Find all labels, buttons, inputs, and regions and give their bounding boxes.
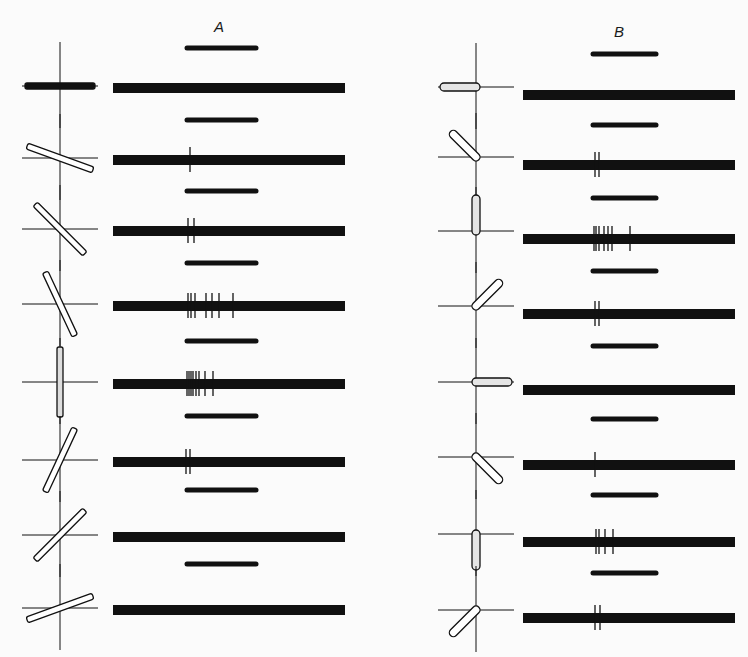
spectrum-band	[113, 226, 345, 236]
spectrum-band	[523, 160, 735, 170]
orientation-icon	[438, 113, 514, 199]
spectrum-band	[523, 385, 735, 395]
spectrum-band	[523, 90, 735, 100]
orientation-icon	[438, 490, 514, 576]
orientation-icon	[22, 260, 98, 346]
orientation-icon	[22, 338, 98, 424]
spectrum-band	[113, 301, 345, 311]
spectrum-band	[523, 234, 735, 244]
orientation-icon	[438, 566, 514, 652]
spectrum-band	[113, 83, 345, 93]
orientation-icon	[438, 338, 514, 424]
orientation-icon	[22, 416, 98, 502]
spectrum-band	[113, 532, 345, 542]
spectrum-band	[523, 537, 735, 547]
orientation-icon	[438, 262, 514, 348]
orientation-icon	[438, 187, 514, 273]
spectrum-band	[113, 457, 345, 467]
spectrum-band	[113, 379, 345, 389]
orientation-icon	[22, 564, 98, 650]
spectrum-band	[523, 613, 735, 623]
orientation-icon	[438, 413, 514, 499]
spectrum-band	[113, 155, 345, 165]
figure-canvas	[0, 0, 748, 657]
spectrum-band	[523, 460, 735, 470]
spectrum-band	[113, 605, 345, 615]
spectrum-band	[523, 309, 735, 319]
orientation-icon	[22, 185, 98, 271]
